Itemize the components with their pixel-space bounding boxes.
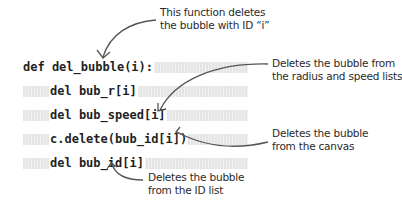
arrow-id-list [107,163,143,180]
arrow-canvas [176,127,268,146]
arrow-function-purpose [97,20,156,58]
code-annotation-diagram: def del_bubble(i): del bub_r[i] del bub_… [0,0,402,208]
arrows-layer [0,0,402,208]
arrow-radius-speed [158,64,268,111]
